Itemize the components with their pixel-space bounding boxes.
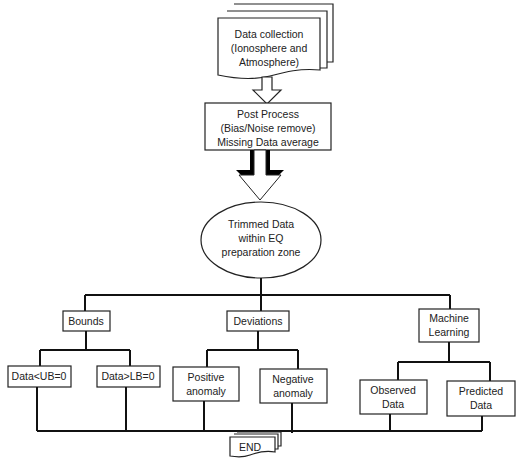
node-data-collection: Data collection (Ionosphere and Atmosphe… [218,4,333,79]
post-process-line1: Post Process [237,108,299,120]
trimmed-data-line3: preparation zone [222,246,301,258]
node-data-lb: Data>LB=0 [97,366,160,387]
node-machine-learning: Machine Learning [419,309,479,342]
observed-data-line2: Data [382,398,404,410]
connector-level1 [85,278,450,311]
node-data-ub: Data<UB=0 [8,366,71,387]
machine-learning-line2: Learning [429,326,470,338]
node-deviations: Deviations [227,311,289,331]
deviations-label: Deviations [233,315,282,327]
node-positive-anomaly: Positive anomaly [173,367,239,401]
node-bounds: Bounds [63,311,110,331]
predicted-data-line2: Data [470,399,492,411]
data-collection-line3: Atmosphere) [239,56,299,68]
post-process-line3: Missing Data average [217,136,319,148]
bounds-label: Bounds [68,315,104,327]
end-label: END [239,441,262,453]
predicted-data-line1: Predicted [459,385,504,397]
positive-anomaly-line1: Positive [188,371,225,383]
connector-deviations-children [207,331,298,369]
node-end: END [230,432,281,457]
data-collection-line1: Data collection [235,28,304,40]
data-lb-label: Data>LB=0 [101,370,154,382]
data-collection-line2: (Ionosphere and [231,42,308,54]
post-process-line2: (Bias/Noise remove) [220,122,315,134]
machine-learning-line1: Machine [429,312,469,324]
connector-bounds-children [40,331,130,366]
bold-arrow-down-icon [236,150,284,200]
node-negative-anomaly: Negative anomaly [260,369,327,403]
negative-anomaly-line1: Negative [272,373,314,385]
connector-ml-children [398,342,490,381]
trimmed-data-line1: Trimmed Data [228,218,294,230]
positive-anomaly-line2: anomaly [186,385,226,397]
trimmed-data-line2: within EQ [238,232,284,244]
flowchart: Data collection (Ionosphere and Atmosphe… [0,0,532,467]
negative-anomaly-line2: anomaly [273,387,313,399]
arrow-down-icon [253,77,281,104]
node-predicted-data: Predicted Data [447,381,515,416]
node-post-process: Post Process (Bias/Noise remove) Missing… [205,103,331,150]
observed-data-line1: Observed [370,384,416,396]
data-ub-label: Data<UB=0 [12,370,67,382]
node-trimmed-data: Trimmed Data within EQ preparation zone [201,202,321,278]
node-observed-data: Observed Data [360,380,427,414]
